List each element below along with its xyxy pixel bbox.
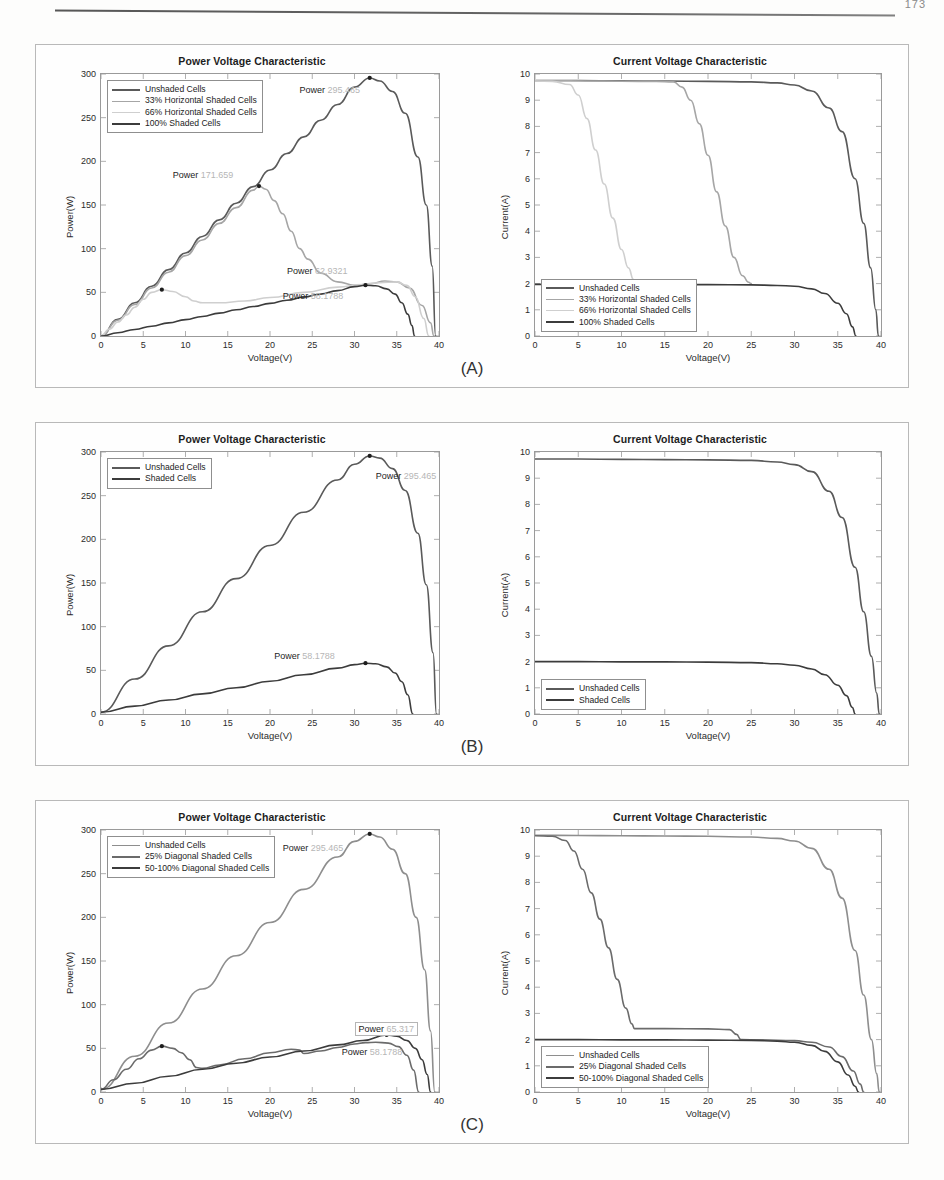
legend-item: Shaded Cells [112,473,206,484]
y-axis-tick: 10 [520,825,530,835]
legend-swatch-icon [546,1077,574,1079]
y-axis-tick: 100 [81,1000,96,1010]
legend-item: 33% Horizontal Shaded Cells [112,95,257,106]
x-axis-tick: 10 [180,1096,190,1106]
chart-legend: Unshaded Cells25% Diagonal Shaded Cells5… [541,1046,709,1088]
figure-panel-b: Power Voltage Characteristic Power(W) 05… [35,422,909,766]
x-axis-tick: 10 [616,340,626,350]
y-axis-label: Current(A) [499,951,510,995]
annotation-power-peak: Power 171.659 [173,170,234,180]
annotation-prefix: Power [173,170,201,180]
legend-label: Unshaded Cells [579,1050,640,1061]
x-axis-tick: 25 [746,718,756,728]
y-axis-tick: 5 [525,200,530,210]
annotation-power-peak: Power 295.465 [300,85,361,95]
chart-b-power: Power Voltage Characteristic Power(W) 05… [42,429,462,761]
y-axis-tick: 0 [525,1087,530,1097]
legend-swatch-icon [112,867,140,869]
x-axis-tick: 25 [307,340,317,350]
x-axis-tick: 20 [703,718,713,728]
x-axis-tick: 20 [265,718,275,728]
y-axis-tick: 1 [525,305,530,315]
annotation-value: 295.465 [328,85,361,95]
y-axis-tick: 3 [525,630,530,640]
annotation-value: 295.465 [404,471,437,481]
legend-item: 50-100% Diagonal Shaded Cells [546,1073,703,1084]
legend-swatch-icon [112,123,140,125]
chart-title: Power Voltage Characteristic [42,811,462,823]
panel-label-a: (A) [461,359,484,379]
annotation-prefix: Power [376,471,404,481]
y-axis-label: Current(A) [499,195,510,239]
legend-label: 33% Horizontal Shaded Cells [579,294,691,305]
x-axis-tick: 10 [616,1096,626,1106]
figure-panel-c: Power Voltage Characteristic Power(W) 05… [35,800,909,1144]
x-axis-tick: 30 [789,340,799,350]
y-axis-tick: 100 [81,244,96,254]
header-rule [55,9,895,16]
chart-title: Current Voltage Characteristic [476,55,904,67]
y-axis-tick: 7 [525,904,530,914]
y-axis-tick: 250 [81,869,96,879]
legend-swatch-icon [112,467,140,469]
legend-swatch-icon [546,699,574,701]
y-axis-tick: 0 [525,331,530,341]
x-axis-tick: 10 [616,718,626,728]
y-axis-tick: 0 [91,331,96,341]
legend-label: 50-100% Diagonal Shaded Cells [145,863,269,874]
plot-area: 0123456789100510152025303540Unshaded Cel… [534,451,882,715]
y-axis-tick: 100 [81,622,96,632]
legend-item: 25% Diagonal Shaded Cells [112,851,269,862]
x-axis-tick: 35 [833,340,843,350]
legend-item: Unshaded Cells [546,1050,703,1061]
x-axis-tick: 35 [392,1096,402,1106]
y-axis-label: Power(W) [64,952,75,994]
x-axis-tick: 35 [833,718,843,728]
legend-item: 66% Horizontal Shaded Cells [112,107,257,118]
legend-swatch-icon [112,845,140,846]
legend-swatch-icon [546,310,574,311]
y-axis-tick: 200 [81,156,96,166]
x-axis-tick: 0 [532,340,537,350]
annotation-value: 62.9321 [315,266,348,276]
x-axis-tick: 20 [703,1096,713,1106]
plot-area: 0501001502002503000510152025303540Unshad… [100,73,440,337]
legend-swatch-icon [546,688,574,690]
y-axis-tick: 9 [525,473,530,483]
annotation-value: 58.1788 [302,651,335,661]
legend-item: Unshaded Cells [112,462,206,473]
y-axis-tick: 4 [525,604,530,614]
y-axis-tick: 300 [81,825,96,835]
x-axis-tick: 15 [223,340,233,350]
y-axis-tick: 7 [525,148,530,158]
y-axis-tick: 9 [525,851,530,861]
chart-c-power: Power Voltage Characteristic Power(W) 05… [42,807,462,1139]
annotation-power-peak: Power 295.465 [376,471,437,481]
legend-swatch-icon [112,89,140,91]
y-axis-tick: 300 [81,69,96,79]
legend-label: Unshaded Cells [579,283,640,294]
legend-swatch-icon [546,321,574,323]
annotation-power-peak: Power 65.317 [355,1022,419,1036]
x-axis-tick: 40 [876,340,886,350]
x-axis-tick: 40 [434,340,444,350]
chart-title: Power Voltage Characteristic [42,55,462,67]
x-axis-tick: 30 [349,1096,359,1106]
y-axis-label: Current(A) [499,573,510,617]
annotation-power-peak: Power 62.9321 [287,266,348,276]
legend-label: 100% Shaded Cells [145,118,221,129]
annotation-prefix: Power [359,1024,387,1034]
x-axis-tick: 25 [746,1096,756,1106]
x-axis-tick: 5 [141,718,146,728]
legend-label: Unshaded Cells [579,683,640,694]
legend-label: 100% Shaded Cells [579,317,655,328]
x-axis-tick: 40 [434,1096,444,1106]
x-axis-tick: 5 [576,1096,581,1106]
legend-label: 33% Horizontal Shaded Cells [145,95,257,106]
legend-item: Unshaded Cells [546,683,640,694]
legend-label: 66% Horizontal Shaded Cells [145,107,257,118]
y-axis-tick: 0 [525,709,530,719]
legend-swatch-icon [546,299,574,300]
legend-label: Unshaded Cells [145,840,206,851]
x-axis-tick: 40 [876,718,886,728]
